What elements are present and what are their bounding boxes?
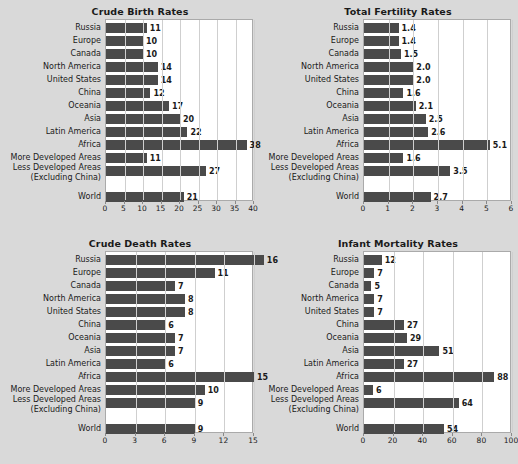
bar-row: 27 [106, 165, 252, 178]
category-label-russia: Russia [75, 21, 101, 34]
axis-tick-label: 12 [219, 436, 229, 445]
category-label-less-developed-areas: Less Developed Areas(Excluding China) [13, 395, 101, 408]
bar-row: 9 [106, 397, 252, 410]
category-label-europe: Europe [331, 34, 359, 47]
gridline [453, 252, 454, 432]
axis-tick-label: 1 [385, 204, 390, 213]
axis-tick-label: 2 [410, 204, 415, 213]
plot-wrapper: RussiaEuropeCanadaNorth AmericaUnited St… [264, 19, 511, 219]
bar-row: 88 [364, 371, 510, 384]
bar-value-label: 1.6 [403, 152, 420, 165]
gridline [162, 20, 163, 200]
bar-row: 14 [106, 61, 252, 74]
category-label-world: World [78, 190, 101, 203]
category-label-less-developed-areas: Less Developed Areas(Excluding China) [13, 163, 101, 176]
bar [106, 23, 147, 33]
bar [106, 166, 206, 176]
gridline [143, 20, 144, 200]
bar-value-label: 64 [459, 397, 473, 410]
axis-tick-label: 35 [230, 204, 240, 213]
bar-value-label: 7 [175, 280, 184, 293]
bar-value-label: 88 [494, 371, 508, 384]
category-label-latin-america: Latin America [46, 125, 101, 138]
category-label-canada: Canada [329, 47, 359, 60]
category-label-north-america: North America [301, 292, 359, 305]
bar-value-label: 3.5 [450, 165, 467, 178]
bar-value-label: 2.6 [428, 126, 445, 139]
plot-area: 16117886776151099 [105, 251, 253, 433]
category-label-oceania: Oceania [68, 331, 101, 344]
bar [364, 23, 399, 33]
bar-value-label: 8 [185, 306, 194, 319]
bar-row: 64 [364, 397, 510, 410]
gridline [512, 252, 513, 432]
axis-tick-label: 60 [447, 436, 457, 445]
bar-row: 10 [106, 35, 252, 48]
chart-title: Crude Death Rates [0, 238, 258, 249]
bar-value-label: 27 [404, 358, 418, 371]
axis-tick-label: 3 [132, 436, 137, 445]
gridline [254, 252, 255, 432]
bar-value-label: 14 [158, 61, 172, 74]
bar-value-label: 27 [404, 319, 418, 332]
bar-row: 7 [364, 306, 510, 319]
axis-tick-label: 100 [504, 436, 518, 445]
gridline [217, 20, 218, 200]
gridline [125, 20, 126, 200]
category-label-asia: Asia [342, 344, 359, 357]
axis-tick-label: 25 [193, 204, 203, 213]
category-label-china: China [78, 318, 101, 331]
bar [364, 294, 374, 304]
gridline [224, 252, 225, 432]
axis-tick-label: 20 [388, 436, 398, 445]
bar-row: 7 [106, 345, 252, 358]
bar-row: 27 [364, 358, 510, 371]
bar [364, 385, 373, 395]
x-axis: 03691215 [105, 433, 253, 449]
axis-tick-label: 15 [248, 436, 258, 445]
axis-tick-label: 5 [484, 204, 489, 213]
bar [106, 307, 185, 317]
gridline [512, 20, 513, 200]
category-label-europe: Europe [73, 266, 101, 279]
bar [106, 398, 195, 408]
bar-row: 7 [364, 267, 510, 280]
bar [364, 49, 401, 59]
bar-value-label: 7 [374, 293, 383, 306]
plot-wrapper: RussiaEuropeCanadaNorth AmericaUnited St… [6, 19, 253, 219]
bar-value-label: 5 [371, 280, 380, 293]
chart-panel-infant-mortality-rates: Infant Mortality Rates RussiaEuropeCanad… [258, 232, 516, 464]
bar-value-label: 20 [180, 113, 194, 126]
bar [364, 101, 416, 111]
bar-value-label: 11 [215, 267, 229, 280]
bar-value-label: 6 [373, 384, 382, 397]
bar-row: 27 [364, 319, 510, 332]
bar-rows: 127577272951278866454 [364, 252, 510, 432]
bar [106, 153, 147, 163]
category-label-united-states: United States [47, 73, 101, 86]
bar [106, 140, 247, 150]
bar [364, 140, 490, 150]
bar-row: 6 [106, 319, 252, 332]
category-label-asia: Asia [342, 112, 359, 125]
bar-row: 29 [364, 332, 510, 345]
bar [106, 62, 158, 72]
category-labels: RussiaEuropeCanadaNorth AmericaUnited St… [6, 251, 105, 433]
category-label-europe: Europe [73, 34, 101, 47]
bar [364, 307, 374, 317]
bar [364, 320, 404, 330]
category-label-canada: Canada [71, 279, 101, 292]
category-label-china: China [336, 86, 359, 99]
gridline [423, 252, 424, 432]
bar-rows: 11101014141217202238112721 [106, 20, 252, 200]
bar-value-label: 11 [147, 152, 161, 165]
bar-value-label: 1.5 [401, 48, 418, 61]
bar-rows: 16117886776151099 [106, 252, 252, 432]
bar [106, 385, 205, 395]
chart-title: Total Fertility Rates [258, 6, 516, 17]
axis-tick-label: 20 [174, 204, 184, 213]
bar-row: 10 [106, 48, 252, 61]
bar-value-label: 10 [205, 384, 219, 397]
bar-row: 16 [106, 254, 252, 267]
